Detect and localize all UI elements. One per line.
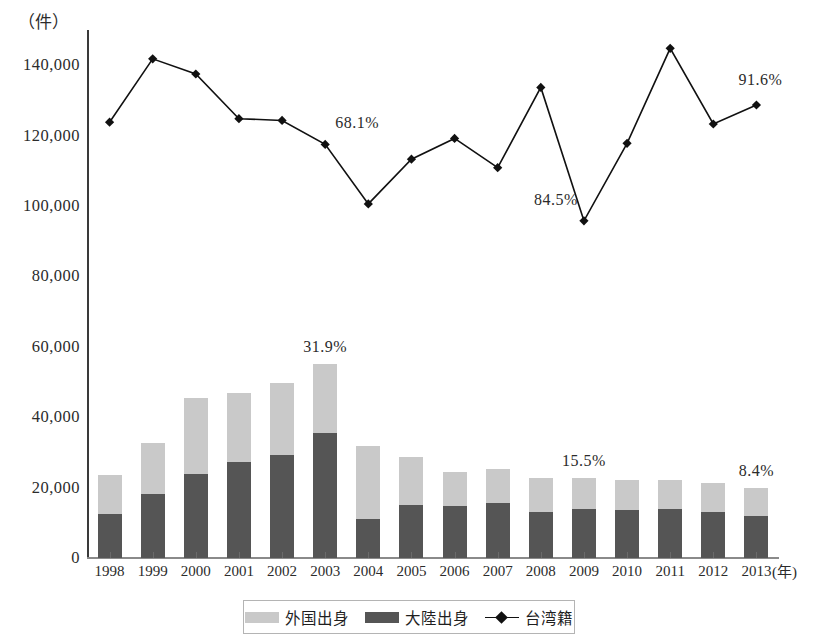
x-axis-tick-mark bbox=[455, 552, 456, 558]
x-axis-tick-label: 2000 bbox=[181, 563, 211, 580]
y-axis-tick-label: 60,000 bbox=[32, 337, 80, 357]
y-axis-tick-label: 20,000 bbox=[32, 478, 80, 498]
y-axis-tick-label: 40,000 bbox=[32, 407, 80, 427]
x-axis-tick-label: 2002 bbox=[267, 563, 297, 580]
x-axis-tick-mark bbox=[498, 552, 499, 558]
x-axis-tick-mark bbox=[110, 552, 111, 558]
line-marker-diamond[interactable] bbox=[752, 100, 761, 109]
legend-label: 外国出身 bbox=[285, 606, 349, 628]
x-axis-tick-mark bbox=[756, 552, 757, 558]
line-marker-diamond[interactable] bbox=[622, 139, 631, 148]
legend-line-diamond-icon bbox=[485, 612, 519, 623]
line-path bbox=[110, 48, 757, 220]
data-label: 8.4% bbox=[739, 462, 774, 480]
legend-swatch-icon bbox=[365, 612, 399, 623]
data-label: 68.1% bbox=[335, 114, 379, 132]
x-axis-tick-mark bbox=[713, 552, 714, 558]
legend-diamond-icon bbox=[495, 611, 508, 624]
legend-label: 台湾籍 bbox=[525, 606, 573, 628]
line-marker-diamond[interactable] bbox=[709, 119, 718, 128]
data-label: 15.5% bbox=[562, 452, 606, 470]
x-axis-tick-label: 2008 bbox=[526, 563, 556, 580]
x-axis-tick-label: 2013 bbox=[741, 563, 771, 580]
legend-swatch-icon bbox=[245, 612, 279, 623]
line-series-layer bbox=[88, 30, 778, 558]
x-axis-tick-mark bbox=[411, 552, 412, 558]
y-axis-tick-label: 140,000 bbox=[23, 55, 80, 75]
y-axis-tick-label: 0 bbox=[71, 548, 80, 568]
line-marker-diamond[interactable] bbox=[277, 116, 286, 125]
x-axis-tick-mark bbox=[153, 552, 154, 558]
x-axis-tick-mark bbox=[627, 552, 628, 558]
x-axis-tick-mark bbox=[282, 552, 283, 558]
data-label: 91.6% bbox=[739, 71, 783, 89]
y-axis-tick-label: 100,000 bbox=[23, 196, 80, 216]
line-marker-diamond[interactable] bbox=[148, 54, 157, 63]
x-axis-tick-label: 2010 bbox=[612, 563, 642, 580]
legend-item[interactable]: 大陸出身 bbox=[365, 606, 469, 628]
x-axis-tick-mark bbox=[325, 552, 326, 558]
x-axis-tick-mark bbox=[196, 552, 197, 558]
y-axis-tick-labels: 020,00040,00060,00080,000100,000120,0001… bbox=[0, 30, 80, 558]
x-axis-tick-label: 2007 bbox=[483, 563, 513, 580]
x-axis-tick-label: 2006 bbox=[440, 563, 470, 580]
legend-label: 大陸出身 bbox=[405, 606, 469, 628]
y-axis-tick-label: 120,000 bbox=[23, 126, 80, 146]
x-axis-tick-label: 1999 bbox=[138, 563, 168, 580]
x-axis-tick-label: 2009 bbox=[569, 563, 599, 580]
x-axis-tick-label: 2012 bbox=[698, 563, 728, 580]
line-marker-diamond[interactable] bbox=[450, 134, 459, 143]
line-marker-diamond[interactable] bbox=[493, 163, 502, 172]
x-axis-tick-label: 2003 bbox=[310, 563, 340, 580]
y-axis-tick-label: 80,000 bbox=[32, 266, 80, 286]
x-axis-tick-mark bbox=[541, 552, 542, 558]
x-axis-tick-mark bbox=[239, 552, 240, 558]
line-marker-diamond[interactable] bbox=[536, 83, 545, 92]
x-axis-tick-label: 2011 bbox=[655, 563, 684, 580]
line-marker-diamond[interactable] bbox=[105, 118, 114, 127]
x-axis-unit-label: (年) bbox=[772, 560, 797, 581]
x-axis-tick-mark bbox=[670, 552, 671, 558]
x-axis-tick-mark bbox=[584, 552, 585, 558]
chart-legend: 外国出身大陸出身台湾籍 bbox=[243, 600, 575, 634]
data-label: 31.9% bbox=[303, 338, 347, 356]
plot-area bbox=[88, 30, 778, 558]
data-label: 84.5% bbox=[534, 191, 578, 209]
x-axis-tick-label: 2001 bbox=[224, 563, 254, 580]
legend-item[interactable]: 台湾籍 bbox=[485, 606, 573, 628]
chart-container: （件） (年) 020,00040,00060,00080,000100,000… bbox=[0, 0, 816, 640]
legend-item[interactable]: 外国出身 bbox=[245, 606, 349, 628]
x-axis-tick-label: 2005 bbox=[396, 563, 426, 580]
x-axis-tick-label: 2004 bbox=[353, 563, 383, 580]
line-marker-diamond[interactable] bbox=[579, 216, 588, 225]
x-axis-tick-label: 1998 bbox=[95, 563, 125, 580]
x-axis-tick-mark bbox=[368, 552, 369, 558]
line-marker-diamond[interactable] bbox=[666, 44, 675, 53]
